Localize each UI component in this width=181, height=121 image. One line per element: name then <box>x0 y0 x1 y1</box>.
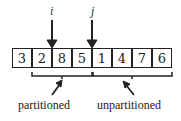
unpartitioned-label: unpartitioned <box>97 98 161 113</box>
brace-unpartitioned-icon <box>93 72 172 79</box>
arrow-partitioned-icon <box>52 80 62 95</box>
arrow-j-icon <box>87 20 97 48</box>
brace-partitioned-icon <box>32 72 92 79</box>
partitioned-label: partitioned <box>18 98 70 113</box>
arrow-unpartitioned-icon <box>123 81 134 95</box>
arrow-i-icon <box>47 20 57 48</box>
